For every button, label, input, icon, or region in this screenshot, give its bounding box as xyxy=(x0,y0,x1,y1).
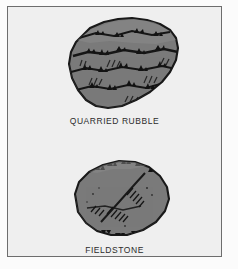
quarried-rubble-stone-illustration xyxy=(52,10,184,114)
caption-quarried-rubble: QUARRIED RUBBLE xyxy=(8,116,221,126)
stone-types-figure: QUARRIED RUBBLE xyxy=(0,0,238,269)
caption-fieldstone: FIELDSTONE xyxy=(8,245,221,255)
fieldstone-stone-illustration xyxy=(57,150,179,244)
